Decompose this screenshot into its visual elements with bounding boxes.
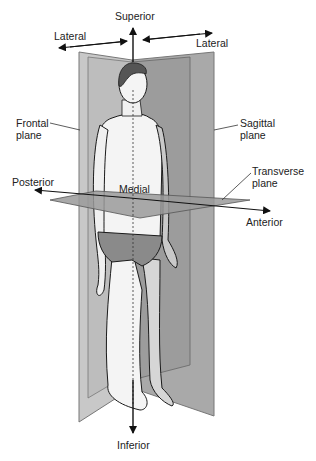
label-frontal-plane-2: plane: [16, 129, 42, 141]
label-frontal-plane-1: Frontal: [16, 117, 49, 129]
frontal-plane-leader: [50, 123, 80, 130]
diagram-canvas: [0, 0, 316, 461]
transverse-plane-leader: [222, 173, 251, 200]
label-inferior: Inferior: [117, 439, 150, 451]
label-medial: Medial: [119, 183, 150, 195]
label-anterior: Anterior: [246, 216, 283, 228]
label-lateral-right: Lateral: [196, 37, 228, 49]
label-transverse-plane-1: Transverse: [252, 165, 304, 177]
label-sagittal-plane-1: Sagittal: [240, 117, 275, 129]
label-sagittal-plane-2: plane: [240, 129, 266, 141]
anatomical-planes-diagram: Superior Lateral Lateral Frontal plane S…: [0, 0, 316, 461]
sagittal-plane-leader: [214, 125, 238, 130]
label-posterior: Posterior: [12, 176, 54, 188]
lateral-right-arrow-tip: [143, 34, 200, 40]
label-superior: Superior: [115, 10, 155, 22]
label-transverse-plane-2: plane: [252, 177, 278, 189]
label-lateral-left: Lateral: [54, 30, 86, 42]
